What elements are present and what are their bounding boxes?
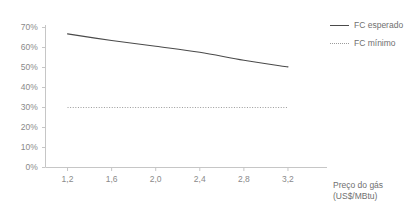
- x-axis-tick-label: 3,2: [273, 175, 303, 184]
- legend-label-fc-esperado: FC esperado: [354, 21, 403, 30]
- legend-item-fc-minimo: FC mínimo: [330, 36, 416, 51]
- legend-dotted-line-icon: [330, 40, 349, 48]
- y-axis-tick-label: 50%: [4, 63, 38, 72]
- legend-label-fc-minimo: FC mínimo: [354, 39, 396, 48]
- x-axis-tick-label: 2,8: [229, 175, 259, 184]
- x-axis-tick-label: 1,2: [53, 175, 83, 184]
- y-axis-tick-label: 20%: [4, 123, 38, 132]
- x-axis-ticks: [68, 168, 288, 172]
- x-axis-tick-label: 2,0: [141, 175, 171, 184]
- x-axis-tick-label: 1,6: [97, 175, 127, 184]
- series-line-fc-esperado: [68, 34, 288, 67]
- legend-item-fc-esperado: FC esperado: [330, 18, 416, 33]
- y-axis-tick-label: 30%: [4, 103, 38, 112]
- y-axis-tick-label: 40%: [4, 83, 38, 92]
- y-axis-tick-label: 70%: [4, 23, 38, 32]
- y-axis-tick-label: 60%: [4, 43, 38, 52]
- y-axis-tick-label: 10%: [4, 143, 38, 152]
- chart-legend: FC esperado FC mínimo: [330, 18, 416, 54]
- x-axis-tick-label: 2,4: [185, 175, 215, 184]
- y-axis-ticks: [42, 28, 46, 168]
- x-axis-title-text: Preço do gás: [333, 180, 383, 191]
- x-axis-title: Preço do gás (US$/MBtu): [333, 180, 383, 203]
- legend-solid-line-icon: [330, 22, 349, 30]
- x-axis-unit-text: (US$/MBtu): [333, 191, 383, 202]
- chart-container: 0%10%20%30%40%50%60%70% 1,21,62,02,42,83…: [0, 0, 416, 216]
- y-axis-tick-label: 0%: [4, 163, 38, 172]
